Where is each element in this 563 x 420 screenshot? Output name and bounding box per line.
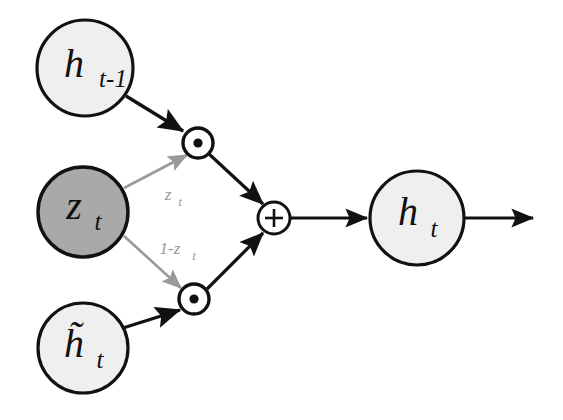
edge-z-to-mul-top [124, 155, 187, 188]
elementwise-multiply-bottom[interactable] [179, 284, 209, 314]
h-prev-node[interactable]: h t-1 [37, 20, 133, 116]
gru-diagram-canvas: h t-1 z t h̃ t h t [0, 0, 563, 420]
z-t-node-circle[interactable] [38, 167, 128, 257]
h-prev-node-subscript: t-1 [99, 65, 127, 92]
gate-weight-label-one-minus-z: 1-z t [160, 239, 197, 263]
gate-weight-label-z-text: z [164, 185, 172, 204]
h-t-node-label: h [398, 189, 418, 234]
gate-weight-label-z-subscript: t [178, 194, 182, 209]
addition-operator[interactable] [258, 202, 290, 234]
h-t-node[interactable]: h t [370, 171, 464, 265]
multiply-bottom-dot-icon [189, 294, 198, 303]
gate-weight-label-one-minus-z-text: 1-z [160, 239, 181, 258]
h-t-node-subscript: t [431, 215, 439, 242]
gru-diagram: h t-1 z t h̃ t h t [0, 0, 563, 420]
edge-mul-top-to-add [209, 154, 263, 204]
elementwise-multiply-top[interactable] [183, 128, 213, 158]
edge-label-layer: z t 1-z t [160, 185, 197, 263]
edge-h-cand-to-mul-bottom [123, 310, 180, 328]
h-candidate-node[interactable]: h̃ t [38, 303, 128, 393]
z-t-node[interactable]: z t [38, 167, 128, 257]
z-t-node-subscript: t [95, 208, 103, 235]
operator-layer [179, 128, 290, 314]
edge-h-prev-to-mul-top [126, 96, 183, 131]
multiply-top-dot-icon [193, 138, 202, 147]
h-candidate-node-label: h̃ [64, 321, 84, 366]
h-candidate-node-subscript: t [97, 346, 105, 373]
z-t-node-label: z [65, 183, 82, 228]
gate-weight-label-z: z t [164, 185, 183, 209]
edge-mul-bottom-to-add [207, 233, 263, 289]
node-layer: h t-1 z t h̃ t h t [37, 20, 464, 393]
h-prev-node-label: h [64, 41, 84, 86]
gate-weight-label-one-minus-z-subscript: t [192, 248, 196, 263]
